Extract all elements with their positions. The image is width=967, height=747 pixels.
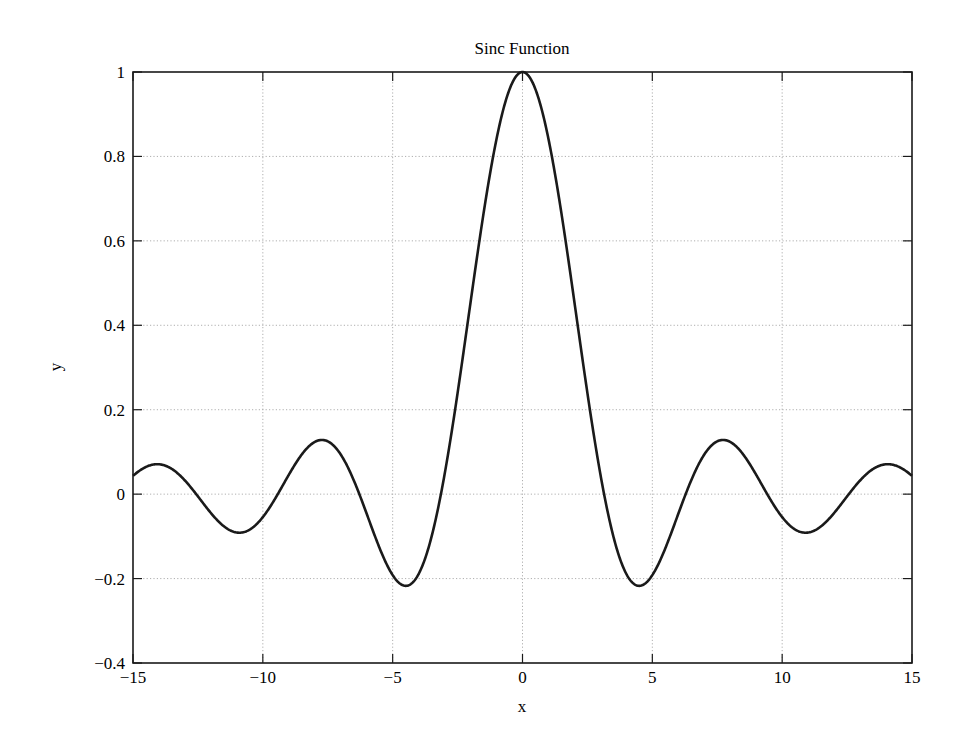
- x-tick-label: −5: [384, 668, 402, 687]
- sinc-chart: −15−10−5051015 −0.4−0.200.20.40.60.81 Si…: [0, 0, 967, 747]
- grid-lines: [133, 72, 912, 663]
- sinc-curve: [133, 72, 912, 586]
- x-axis-label: x: [518, 697, 527, 716]
- x-tick-label: 15: [904, 668, 921, 687]
- y-tick-label: 0: [117, 485, 126, 504]
- y-tick-label: 0.2: [104, 401, 125, 420]
- y-tick-label: −0.2: [94, 570, 125, 589]
- x-tick-labels: −15−10−5051015: [120, 668, 921, 687]
- y-tick-label: −0.4: [94, 654, 125, 673]
- x-tick-label: 5: [648, 668, 657, 687]
- chart-title: Sinc Function: [475, 39, 570, 58]
- y-tick-label: 1: [117, 63, 126, 82]
- y-tick-label: 0.6: [104, 232, 125, 251]
- x-tick-label: −10: [250, 668, 277, 687]
- y-axis-label: y: [46, 362, 65, 371]
- x-tick-label: 0: [518, 668, 527, 687]
- x-tick-label: 10: [774, 668, 791, 687]
- y-tick-label: 0.4: [104, 316, 126, 335]
- y-tick-labels: −0.4−0.200.20.40.60.81: [94, 63, 125, 673]
- y-tick-label: 0.8: [104, 147, 125, 166]
